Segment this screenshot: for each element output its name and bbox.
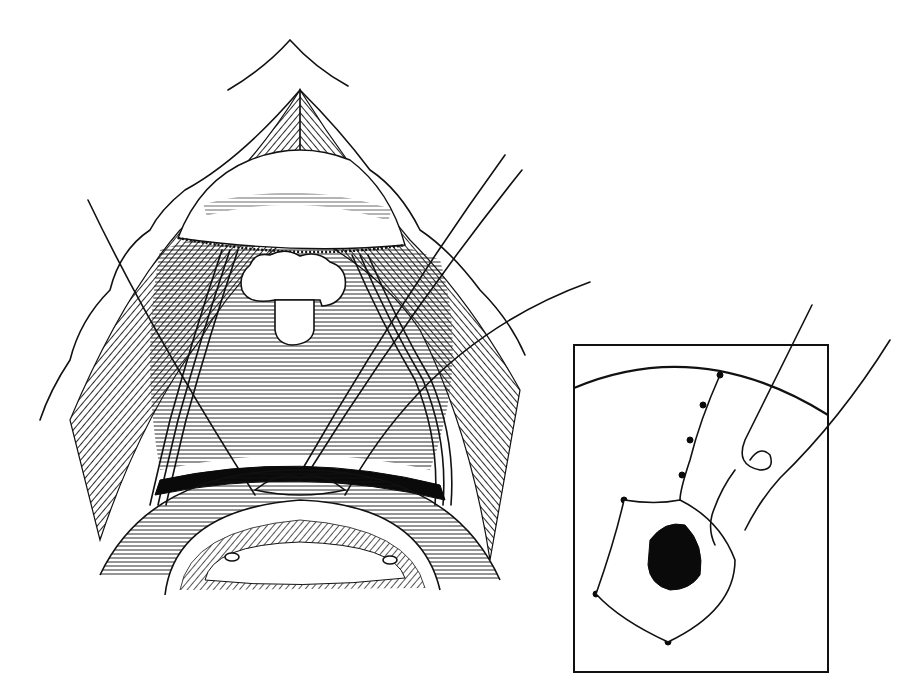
inset-view [574,305,890,672]
orifice-right [383,556,397,564]
orifice-left [225,553,239,561]
incision-apex [228,40,348,90]
white-rectangular-stump [275,300,314,345]
main-view [40,40,590,595]
surgical-illustration [0,0,916,698]
